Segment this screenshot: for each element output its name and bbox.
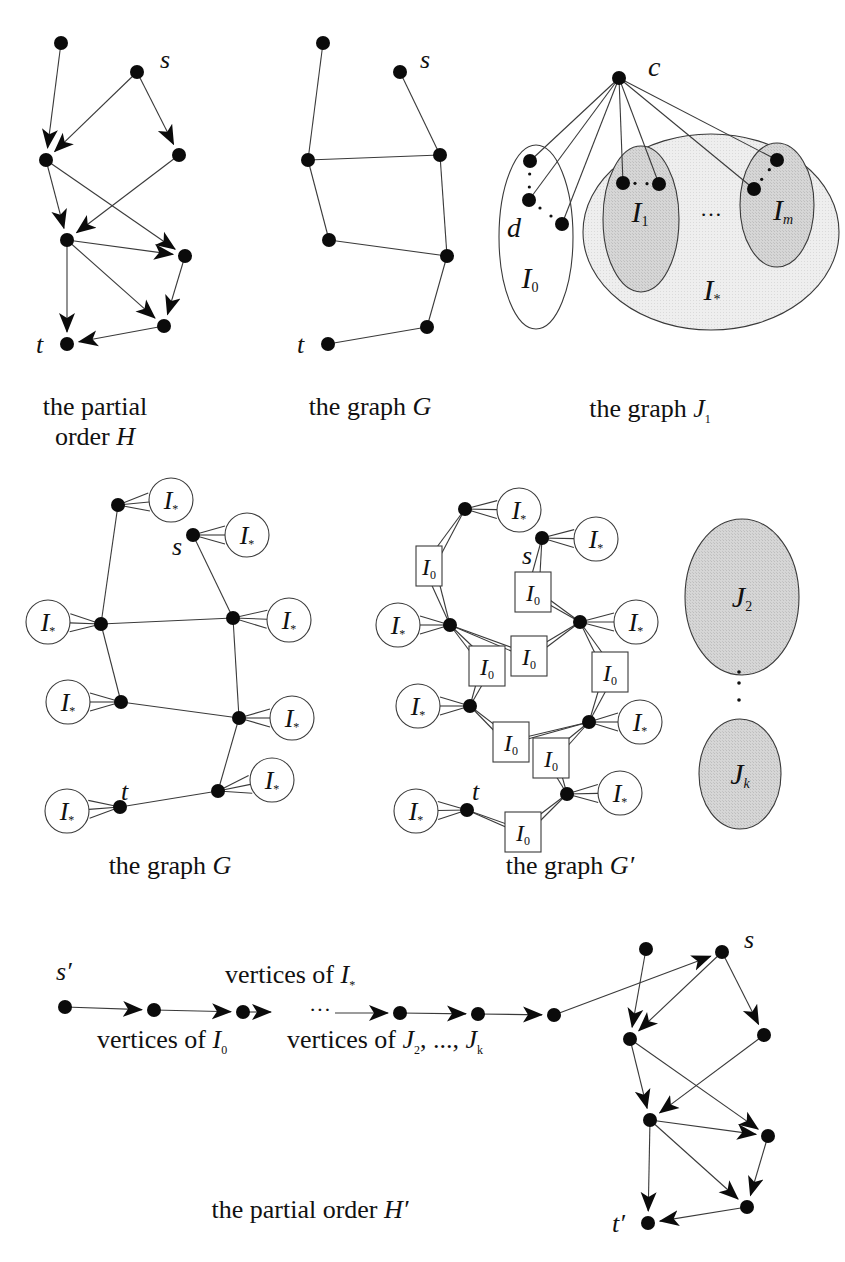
caption-H-line1: the partial [20, 392, 170, 422]
edge [427, 256, 447, 327]
figure-canvas: st st cdI0I1ImI*… I*I*I*I*I*I*I*I*st I0I… [0, 0, 845, 1262]
arc [67, 240, 173, 254]
label-s: s [744, 925, 754, 954]
vertex [94, 617, 108, 631]
vertex [236, 1005, 250, 1019]
dot [549, 214, 552, 217]
vertex [157, 319, 171, 333]
vertex [757, 1028, 771, 1042]
caption-graph-G-prime: the graph G′ [460, 851, 680, 881]
vertex [560, 787, 574, 801]
vertex [301, 153, 315, 167]
vertex [463, 699, 477, 713]
edge [101, 624, 121, 702]
vertex [54, 36, 68, 50]
vertex [440, 249, 454, 263]
dot [768, 168, 771, 171]
vertex [573, 615, 587, 629]
vertex [316, 36, 330, 50]
vertex [178, 249, 192, 263]
edge [308, 160, 329, 240]
vdot [737, 698, 741, 702]
dot [760, 178, 763, 181]
vertex-label: s [160, 45, 170, 74]
arc [660, 1207, 747, 1221]
label-c: c [648, 51, 661, 82]
vertex-label: s [420, 45, 430, 74]
vertex [652, 177, 666, 191]
panel-graph-G-middle: I*I*I*I*I*I*I*I*st [26, 478, 314, 833]
vertex-label: t [472, 777, 480, 806]
dot [528, 185, 531, 188]
arc [648, 1120, 650, 1211]
vertex [641, 1216, 655, 1230]
vertex [623, 1032, 637, 1046]
arc [55, 72, 137, 152]
arc [632, 949, 646, 1027]
vertex [443, 618, 457, 632]
vertex [616, 176, 630, 190]
edge [328, 327, 427, 344]
vertex [535, 531, 549, 545]
vertex [172, 148, 186, 162]
dot [633, 182, 636, 185]
panel-J-stack: J2Jk [685, 519, 799, 829]
edge [233, 618, 239, 718]
caption-partial-order-H: the partial order H [20, 392, 170, 452]
dot [528, 172, 531, 175]
label-vertices-of-J2-Jk: vertices of J2, ..., Jk [287, 1025, 577, 1065]
vertex [232, 711, 246, 725]
vertex-label: t [121, 777, 129, 806]
vertex [770, 153, 784, 167]
label-d: d [507, 212, 522, 243]
caption-graph-G-top: the graph G [270, 392, 470, 422]
vertex [639, 942, 653, 956]
edge [193, 535, 233, 618]
vertex [226, 611, 240, 625]
arc [650, 1120, 756, 1134]
vertex [321, 337, 335, 351]
arc [660, 1035, 764, 1113]
label-t-prime: t′ [612, 1209, 625, 1238]
vertex [747, 182, 761, 196]
vertex [60, 337, 74, 351]
panel-graph-J1: cdI0I1ImI*… [499, 51, 839, 330]
vertex [612, 71, 626, 85]
caption-graph-J1: the graph J1 [540, 394, 760, 434]
label-s-prime: s′ [56, 957, 72, 986]
edge [101, 505, 118, 624]
arc [478, 1014, 542, 1015]
edge [440, 155, 447, 256]
arc [137, 72, 174, 144]
edge [530, 78, 619, 161]
vertex [420, 320, 434, 334]
vertex [211, 784, 225, 798]
panel-partial-order-H: st [36, 36, 192, 359]
vertex [715, 945, 729, 959]
panel-partial-order-H-prime: ···s′st′ [56, 925, 775, 1238]
arc [67, 240, 155, 318]
chain-ellipsis: ··· [309, 997, 331, 1022]
arc [48, 43, 61, 148]
caption-partial-order-H-prime: the partial order H′ [180, 1195, 440, 1225]
vertex [761, 1129, 775, 1143]
edge [218, 718, 239, 791]
arc [750, 1136, 768, 1195]
edge [120, 791, 218, 807]
dot [538, 206, 541, 209]
vertex [147, 1003, 161, 1017]
vertex-label: s [522, 541, 532, 570]
vertex [60, 233, 74, 247]
arc [639, 952, 722, 1031]
vertex-label: t [297, 330, 305, 359]
arc [65, 1007, 142, 1010]
vertex [130, 65, 144, 79]
vertex [58, 1000, 72, 1014]
vertex [433, 148, 447, 162]
edge [101, 618, 233, 624]
vertex [393, 65, 407, 79]
vertex [582, 715, 596, 729]
vertex [522, 193, 536, 207]
arc [154, 1010, 231, 1012]
edge [308, 155, 440, 160]
